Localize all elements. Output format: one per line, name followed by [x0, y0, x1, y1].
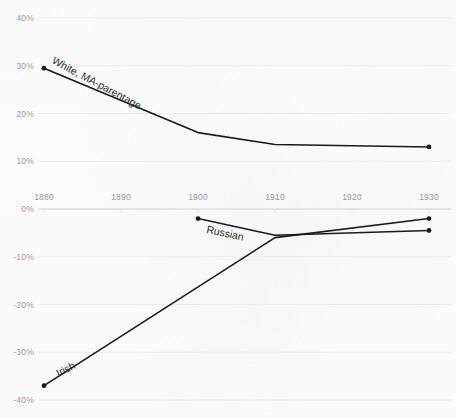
y-tick-label: -20%: [0, 300, 34, 310]
series-marker: [427, 145, 432, 150]
zero-axis-line: [38, 208, 451, 213]
x-tick-label: 1900: [178, 192, 218, 202]
series-marker: [42, 383, 47, 388]
series-marker: [42, 66, 47, 71]
series-line-irish: [44, 219, 429, 386]
y-tick-label: 40%: [0, 13, 34, 23]
series-marker: [427, 228, 432, 233]
x-tick-label: 1930: [409, 192, 449, 202]
y-tick-label: 30%: [0, 61, 34, 71]
x-tick-label: 1880: [24, 192, 64, 202]
y-tick-label: -30%: [0, 347, 34, 357]
series-lines: [44, 68, 429, 386]
y-tick-label: 10%: [0, 156, 34, 166]
x-tick-label: 1890: [101, 192, 141, 202]
chart-figure: 40%30%20%10%0%-10%-20%-30%-40% 188018901…: [0, 0, 456, 418]
x-tick-label: 1910: [255, 192, 295, 202]
x-tick-label: 1920: [332, 192, 372, 202]
y-tick-label: -40%: [0, 395, 34, 405]
series-marker: [196, 216, 201, 221]
series-marker: [427, 216, 432, 221]
y-tick-label: 0%: [0, 204, 34, 214]
y-tick-label: -10%: [0, 252, 34, 262]
y-tick-label: 20%: [0, 109, 34, 119]
